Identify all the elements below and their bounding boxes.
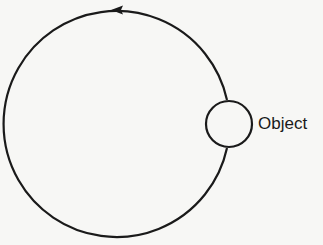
object-circle (206, 101, 252, 147)
circular-path (4, 11, 227, 237)
object-label: Object (258, 113, 307, 135)
circular-motion-diagram: Object (0, 0, 323, 245)
